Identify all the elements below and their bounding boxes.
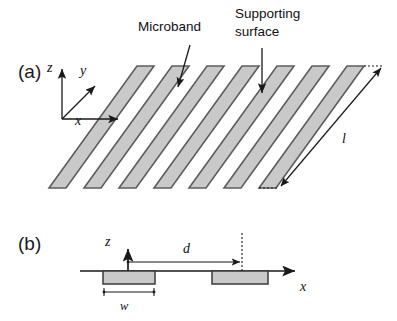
callout-microband: Microband	[138, 19, 201, 34]
microband-block-1	[103, 271, 155, 284]
dimension-label-w: w	[120, 299, 129, 313]
panel-b-axis-label-z: z	[104, 234, 111, 249]
callout-supporting-surface-line2: surface	[235, 24, 279, 39]
figure-background	[0, 0, 397, 321]
panel-b-axis-label-x: x	[299, 279, 307, 294]
panel-tag-a: (a)	[18, 61, 41, 82]
axis-label-y: y	[78, 63, 87, 78]
dimension-label-d: d	[183, 241, 191, 256]
microband-array-figure: (a) (b) z y x l	[0, 0, 397, 321]
axis-label-x: x	[74, 113, 82, 128]
callout-supporting-surface-line1: Supporting	[235, 6, 300, 21]
panel-tag-b: (b)	[18, 233, 41, 254]
dimension-label-l: l	[342, 131, 346, 146]
axis-label-z: z	[46, 60, 53, 75]
microband-block-2	[212, 271, 268, 284]
